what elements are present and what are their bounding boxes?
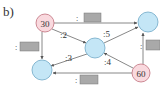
figure-label: b) bbox=[3, 4, 14, 19]
colon-left: : bbox=[15, 43, 17, 52]
edge-label-2: :2 bbox=[60, 30, 67, 40]
value-box-right[interactable] bbox=[146, 40, 160, 50]
node-center[interactable] bbox=[85, 38, 105, 58]
edge-label-3: :3 bbox=[65, 53, 73, 63]
colon-right: : bbox=[140, 42, 142, 51]
node-60-label: 60 bbox=[137, 69, 147, 79]
value-box-left[interactable] bbox=[20, 42, 39, 51]
edge-label-5: :5 bbox=[103, 29, 111, 39]
node-30[interactable]: 30 bbox=[36, 14, 54, 32]
node-top-right[interactable] bbox=[138, 12, 158, 32]
colon-top: : bbox=[76, 14, 78, 23]
colon-bottom: : bbox=[75, 76, 77, 85]
value-box-bottom[interactable] bbox=[80, 75, 98, 84]
node-60[interactable]: 60 bbox=[132, 64, 150, 82]
edge-30-to-center bbox=[52, 29, 86, 43]
node-30-label: 30 bbox=[41, 19, 51, 29]
node-bottom-left[interactable] bbox=[32, 60, 52, 80]
edge-label-4: :4 bbox=[104, 57, 112, 67]
value-box-top[interactable] bbox=[84, 13, 101, 22]
flow-network-diagram: b) : : : : :2 :5 :3 :4 30 bbox=[0, 0, 160, 92]
